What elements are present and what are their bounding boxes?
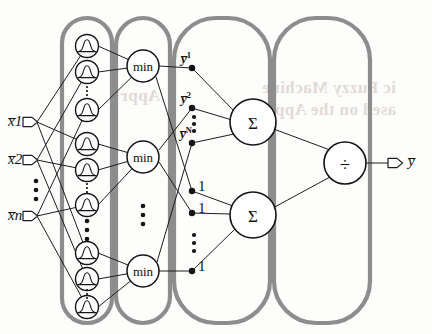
sum-node-denominator[interactable]: Σ <box>230 192 276 238</box>
membership-node[interactable] <box>76 194 99 217</box>
terminal-dot-y2[interactable] <box>189 105 195 111</box>
min-node[interactable]: min <box>127 141 159 173</box>
terminal-dot-one2[interactable] <box>189 210 195 216</box>
membership-nodes <box>76 35 99 319</box>
divide-node[interactable]: ÷ <box>324 142 366 184</box>
membership-node[interactable] <box>76 268 99 291</box>
min-node-label: min <box>133 264 154 279</box>
membership-node[interactable] <box>76 159 99 182</box>
membership-node[interactable] <box>76 242 99 265</box>
diagram-canvas: min min min Σ Σ ÷ <box>0 0 432 334</box>
edges-to-denominator-sum <box>192 191 235 271</box>
input-ports <box>23 117 38 220</box>
terminal-dot-yN[interactable] <box>189 140 195 146</box>
output-port-ybar[interactable] <box>388 158 403 167</box>
membership-node[interactable] <box>76 99 99 122</box>
membership-node[interactable] <box>76 61 99 84</box>
membership-node[interactable] <box>76 133 99 156</box>
sum-node-label: Σ <box>248 207 258 226</box>
edges-to-numerator-sum <box>192 68 235 143</box>
edges-to-divide <box>271 128 330 209</box>
min-node-label: min <box>133 150 154 165</box>
sum-node-numerator[interactable]: Σ <box>230 99 276 145</box>
membership-node[interactable] <box>76 35 99 58</box>
input-port-x1[interactable] <box>23 117 38 126</box>
input-port-x2[interactable] <box>23 155 38 164</box>
terminal-dot-one3[interactable] <box>189 268 195 274</box>
min-node[interactable]: min <box>127 50 159 82</box>
container-consequent-layer <box>174 18 270 323</box>
terminal-dot-y1[interactable] <box>189 65 195 71</box>
min-nodes: min min min <box>127 50 159 287</box>
min-node[interactable]: min <box>127 255 159 287</box>
divide-node-label: ÷ <box>340 154 350 175</box>
network-diagram: ic Fuzzy Machine ased on the Appro Appr <box>0 0 432 334</box>
min-node-label: min <box>133 59 154 74</box>
sum-node-label: Σ <box>248 114 258 133</box>
terminal-dot-one1[interactable] <box>189 188 195 194</box>
input-port-xn[interactable] <box>23 211 38 220</box>
